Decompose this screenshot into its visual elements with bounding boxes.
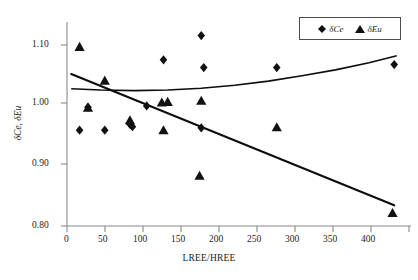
data-point-triangle	[163, 97, 173, 106]
data-point-diamond	[200, 63, 208, 72]
x-tick-label-0: 0	[64, 234, 69, 244]
legend-label-deu: δEu	[368, 24, 382, 34]
trendline-deu	[71, 74, 394, 205]
data-point-triangle	[100, 76, 110, 85]
x-axis-title: LREE/HREE	[0, 253, 418, 263]
x-tick-label-50: 50	[98, 234, 108, 244]
y-tick-label-090: 0.90	[32, 158, 49, 168]
data-point-triangle	[387, 208, 397, 217]
x-axis-ticks	[67, 226, 409, 232]
x-tick-label-250: 250	[247, 234, 261, 244]
y-tick-label-110: 1.10	[32, 39, 49, 49]
data-point-diamond	[197, 31, 205, 40]
data-points-deu	[74, 42, 397, 217]
data-point-diamond	[76, 126, 84, 135]
data-point-diamond	[197, 123, 205, 132]
data-point-triangle	[158, 125, 168, 134]
data-point-triangle	[272, 122, 282, 131]
data-point-diamond	[101, 126, 109, 135]
data-point-diamond	[160, 55, 168, 64]
x-tick-label-400: 400	[361, 234, 375, 244]
x-tick-label-350: 350	[323, 234, 337, 244]
x-tick-label-100: 100	[133, 234, 147, 244]
y-axis-title-text: δCe, δEu	[13, 106, 23, 141]
diamond-marker-icon	[318, 21, 326, 29]
x-tick-label-200: 200	[209, 234, 223, 244]
trendline-dce	[71, 56, 397, 91]
data-point-triangle	[196, 96, 206, 105]
data-point-triangle	[194, 171, 204, 180]
legend-item-deu[interactable]: δEu	[355, 24, 382, 34]
data-point-triangle	[74, 42, 84, 51]
legend-item-dce[interactable]: δCe	[318, 24, 343, 34]
axis-lines	[67, 22, 411, 226]
data-points-dce	[76, 31, 398, 135]
y-axis-ticks	[61, 45, 67, 226]
chart-figure: 1.10 1.00 0.90 0.80 0 50 100 150 200 250…	[0, 0, 418, 280]
data-point-diamond	[390, 60, 398, 69]
triangle-marker-icon	[355, 25, 365, 33]
data-point-diamond	[273, 63, 281, 72]
chart-legend: δCe δEu	[299, 17, 401, 40]
legend-label-dce: δCe	[329, 24, 343, 34]
y-tick-label-100: 1.00	[32, 97, 49, 107]
y-axis-title: δCe, δEu	[13, 75, 23, 171]
data-point-triangle	[125, 115, 135, 124]
y-tick-label-080: 0.80	[32, 220, 49, 230]
x-tick-label-300: 300	[285, 234, 299, 244]
x-tick-label-150: 150	[171, 234, 185, 244]
